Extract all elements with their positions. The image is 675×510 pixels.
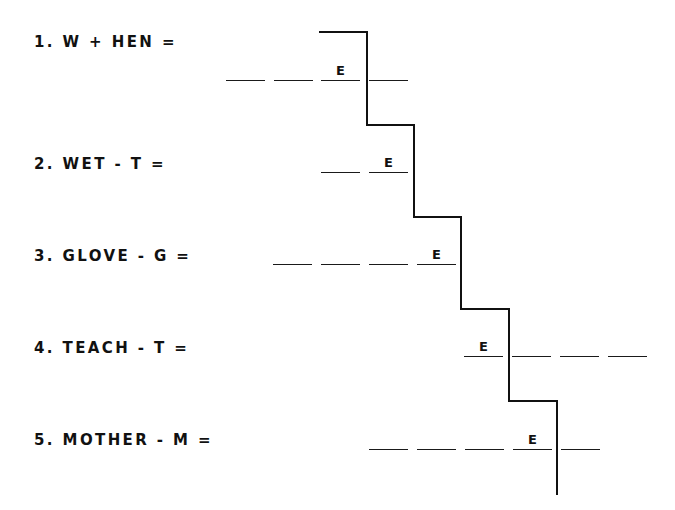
problem-3-label: 3. GLOVE - G = (34, 247, 191, 265)
answer-blank[interactable] (273, 264, 312, 265)
answer-blank[interactable] (608, 356, 647, 357)
given-letter: E (417, 248, 456, 262)
answer-blank[interactable] (512, 356, 551, 357)
answer-blank[interactable] (417, 449, 456, 450)
problem-1-label: 1. W + HEN = (34, 33, 177, 51)
problem-4-label: 4. TEACH - T = (34, 339, 189, 357)
answer-blank[interactable] (369, 449, 408, 450)
given-letter: E (464, 340, 503, 354)
given-letter: E (513, 433, 552, 447)
answer-blank[interactable] (369, 264, 408, 265)
given-letter: E (321, 64, 360, 78)
answer-blank[interactable] (321, 80, 360, 81)
given-letter: E (369, 156, 408, 170)
answer-blank[interactable] (417, 264, 456, 265)
answer-blank[interactable] (274, 80, 313, 81)
answer-blank[interactable] (464, 356, 503, 357)
answer-blank[interactable] (226, 80, 265, 81)
answer-blank[interactable] (369, 80, 408, 81)
answer-blank[interactable] (513, 449, 552, 450)
answer-blank[interactable] (561, 449, 600, 450)
problem-2-label: 2. WET - T = (34, 155, 166, 173)
answer-blank[interactable] (465, 449, 504, 450)
answer-blank[interactable] (560, 356, 599, 357)
answer-blank[interactable] (321, 172, 360, 173)
problem-5-label: 5. MOTHER - M = (34, 431, 213, 449)
answer-blank[interactable] (369, 172, 408, 173)
answer-blank[interactable] (321, 264, 360, 265)
